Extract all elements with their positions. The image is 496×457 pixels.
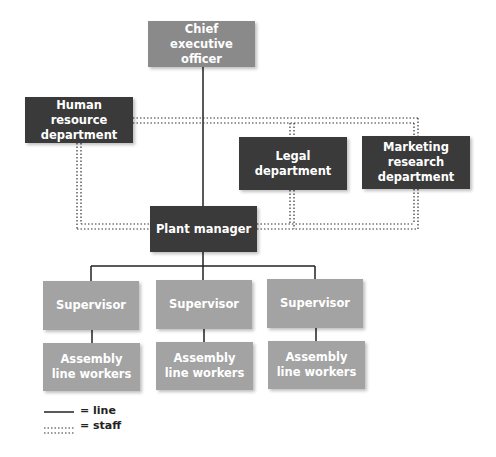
workers-label: Assembly line workers bbox=[156, 351, 253, 381]
legal-box: Legal department bbox=[239, 137, 347, 190]
marketing-label: Marketing research department bbox=[362, 140, 470, 185]
supervisor-label: Supervisor bbox=[56, 298, 126, 313]
legal-label: Legal department bbox=[233, 149, 354, 179]
legend-line-label: = line bbox=[80, 404, 116, 417]
legend-staff-label: = staff bbox=[80, 419, 121, 432]
workers-label: Assembly line workers bbox=[43, 352, 140, 382]
workers-label: Assembly line workers bbox=[268, 350, 365, 380]
ceo-label: Chief executive officer bbox=[148, 22, 255, 67]
supervisor-label: Supervisor bbox=[169, 297, 239, 312]
hr-box: Human resource department bbox=[25, 97, 133, 143]
workers-box: Assembly line workers bbox=[156, 342, 253, 390]
workers-box: Assembly line workers bbox=[43, 343, 140, 391]
supervisor-box: Supervisor bbox=[156, 280, 252, 329]
plant-manager-box: Plant manager bbox=[150, 206, 257, 252]
marketing-box: Marketing research department bbox=[362, 136, 470, 189]
workers-box: Assembly line workers bbox=[268, 341, 365, 389]
supervisor-box: Supervisor bbox=[267, 279, 363, 328]
plant-manager-label: Plant manager bbox=[156, 222, 251, 237]
ceo-box: Chief executive officer bbox=[148, 21, 255, 67]
supervisor-box: Supervisor bbox=[43, 281, 139, 330]
hr-label: Human resource department bbox=[25, 98, 133, 143]
supervisor-label: Supervisor bbox=[280, 296, 350, 311]
